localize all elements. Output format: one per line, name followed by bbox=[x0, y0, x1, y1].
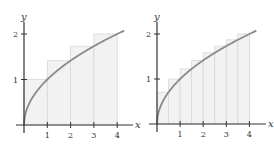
riemann-rectangle bbox=[238, 34, 250, 124]
plot-right-n8: 123412xy bbox=[146, 11, 274, 139]
y-axis-label: y bbox=[153, 11, 160, 22]
x-tick-label: 3 bbox=[91, 131, 96, 140]
riemann-sum-figure: 123412xy 123412xy bbox=[0, 0, 274, 146]
riemann-rectangle bbox=[203, 53, 215, 124]
x-axis-label: x bbox=[135, 119, 141, 130]
x-axis-label: x bbox=[268, 118, 274, 129]
x-tick-label: 4 bbox=[247, 130, 252, 139]
riemann-rectangle bbox=[94, 34, 117, 125]
riemann-rectangle bbox=[24, 80, 47, 126]
x-tick-label: 1 bbox=[45, 131, 50, 140]
x-tick-label: 3 bbox=[224, 130, 229, 139]
riemann-rectangle bbox=[226, 40, 238, 124]
riemann-rectangle bbox=[215, 46, 227, 124]
x-tick-label: 1 bbox=[178, 130, 183, 139]
plot-left-n4: 123412xy bbox=[13, 11, 141, 140]
riemann-rectangle bbox=[157, 92, 169, 124]
y-tick-label: 2 bbox=[13, 30, 18, 39]
x-tick-label: 2 bbox=[201, 130, 206, 139]
y-tick-label: 1 bbox=[146, 75, 151, 84]
riemann-rectangle bbox=[192, 60, 204, 124]
y-tick-label: 1 bbox=[13, 76, 18, 85]
y-axis-label: y bbox=[20, 11, 27, 22]
y-tick-label: 2 bbox=[146, 30, 151, 39]
x-tick-label: 4 bbox=[115, 131, 120, 140]
x-tick-label: 2 bbox=[68, 131, 73, 140]
